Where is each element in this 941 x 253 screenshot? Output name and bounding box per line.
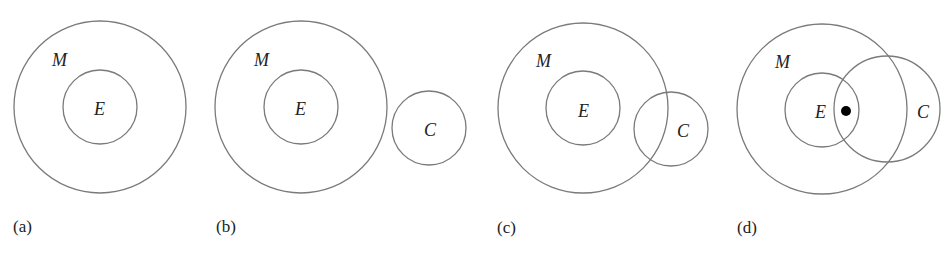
set-label-e: E [93,99,105,119]
set-label-e: E [577,101,589,121]
set-circle-c [634,92,708,166]
panel-d: MEC(d) [737,24,940,237]
panel-caption-b: (b) [216,217,236,236]
set-label-c: C [424,120,437,140]
panel-caption-c: (c) [497,218,516,237]
panel-caption-d: (d) [737,218,757,237]
set-label-m: M [535,51,552,71]
set-label-e: E [294,99,306,119]
panel-b: MEC(b) [215,21,466,236]
panel-c: MEC(c) [497,23,708,237]
element-point-dot [841,106,851,116]
panel-a: ME(a) [13,21,186,236]
set-label-e: E [814,102,826,122]
set-label-c: C [677,121,690,141]
venn-diagram-figure: ME(a)MEC(b)MEC(c)MEC(d) [0,0,941,253]
set-label-m: M [253,50,270,70]
set-label-c: C [917,102,930,122]
panel-caption-a: (a) [13,217,32,236]
set-label-m: M [774,52,791,72]
set-label-m: M [51,50,68,70]
